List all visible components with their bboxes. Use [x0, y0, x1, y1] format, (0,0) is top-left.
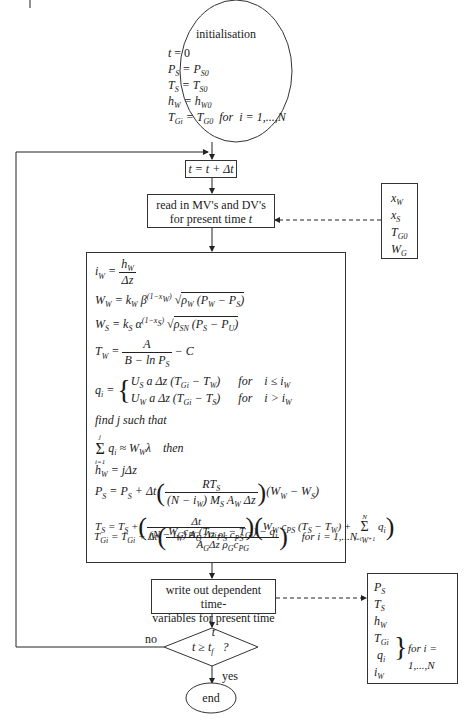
eq-hw: hW = jΔz	[95, 463, 137, 478]
eq-qi: qi = { US a Δz (TGi − TW) for i ≤ iW UW …	[95, 373, 292, 407]
write-line1: write out dependent time-	[152, 583, 275, 611]
init-ts: TS = TS0	[168, 78, 207, 93]
init-tg: TGi = TG0 for i = 1,...,N	[168, 110, 286, 125]
model-equations-box: iW = hWΔz WW = kW β(1−xW) √ρW (PW − PS) …	[86, 252, 346, 563]
end-label: end	[186, 691, 236, 705]
input-var-tg0: TG0	[391, 224, 417, 241]
input-var-xw: xW	[391, 190, 417, 207]
output-variables-box: PS TS hW TGi qi } for i = 1,...,N iW	[367, 573, 458, 684]
input-variables-box: xW xS TG0 WG	[381, 183, 418, 259]
init-hw: hW = hW0	[168, 94, 211, 109]
read-time-var: t	[249, 212, 252, 226]
read-line1: read in MV's and DV's	[148, 198, 274, 212]
read-line2: for present time	[170, 212, 246, 226]
eq-tw: TW = AB − ln PS − C	[95, 337, 194, 368]
eq-find-j: find j such that	[95, 413, 167, 428]
output-var-group: TGi qi } for i = 1,...,N	[374, 630, 457, 664]
eq-ws: WS = kS α(1−xS) √ρSN (PS − PU)	[95, 317, 238, 332]
output-for-label: for i = 1,...,N	[408, 640, 457, 674]
for-i-label: for i = 1,...N	[302, 530, 357, 542]
output-var-hw: hW	[374, 613, 457, 630]
decision-no-label: no	[145, 632, 157, 646]
brace-icon: }	[394, 632, 407, 662]
initialisation-node: initialisation t = 0 PS = PS0 TS = TS0 h…	[160, 0, 312, 142]
eq-sum-q: jΣi=1 qi ≈ WWλ then	[95, 431, 184, 467]
write-time-var: t	[212, 625, 215, 639]
eq-ww: WW = kW β(1−xW) √ρW (PW − PS)	[95, 293, 244, 308]
eq-iw: iW = hWΔz	[95, 257, 136, 288]
decision-yes-label: yes	[222, 669, 238, 683]
eq-ps: PS = PS + Δt(RTS(N − iW) MS AW Δz)(WW − …	[95, 477, 319, 508]
write-line2: variables for present time	[152, 611, 274, 625]
read-inputs-box: read in MV's and DV's for present time t	[147, 194, 275, 228]
init-t: t = 0	[168, 46, 190, 61]
output-var-ts: TS	[374, 596, 457, 613]
output-var-ps: PS	[374, 579, 457, 596]
time-step-box: t = t + Δt	[185, 160, 237, 178]
then-label: then	[163, 441, 184, 455]
write-outputs-box: write out dependent time- variables for …	[151, 579, 276, 614]
decision-condition: t ≥ tf ?	[192, 640, 229, 655]
input-var-xs: xS	[391, 207, 417, 224]
time-step-label: t = t + Δt	[188, 162, 233, 176]
init-ps: PS = PS0	[168, 62, 209, 77]
init-title: initialisation	[196, 27, 256, 42]
input-var-wg: WG	[391, 241, 417, 258]
eq-tgi-line: TGi = TGi + Δt(WGcPG(TGi+1 − TGi) − qiAG…	[94, 522, 357, 552]
